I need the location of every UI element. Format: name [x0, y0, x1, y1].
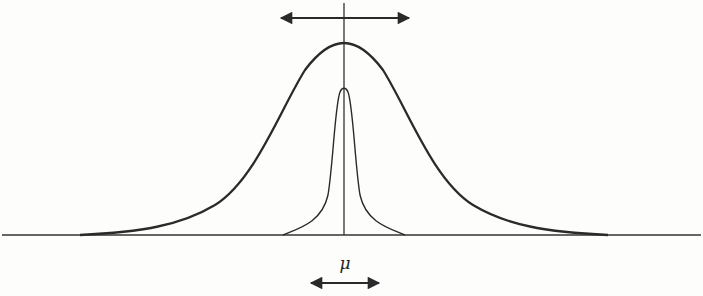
mean-label: μ	[339, 253, 350, 273]
distribution-diagram	[0, 0, 703, 296]
